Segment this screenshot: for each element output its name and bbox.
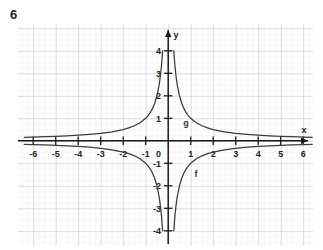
y-tick-label: -4 — [153, 226, 161, 236]
x-tick-label: -4 — [74, 149, 82, 159]
y-tick-label: -1 — [153, 159, 161, 169]
curve-label-g: g — [183, 118, 189, 128]
x-tick-label: -3 — [97, 149, 105, 159]
x-tick-label: 1 — [188, 149, 193, 159]
origin-label: 0 — [156, 149, 161, 159]
x-tick-label: 3 — [233, 149, 238, 159]
x-tick-label: -2 — [119, 149, 127, 159]
y-tick-label: 1 — [156, 114, 161, 124]
x-tick-label: 2 — [211, 149, 216, 159]
grid-background — [18, 24, 313, 246]
y-tick-label: 4 — [156, 46, 161, 56]
x-tick-label: 5 — [278, 149, 283, 159]
x-tick-label: 6 — [301, 149, 306, 159]
x-axis-label: x — [301, 125, 306, 135]
x-tick-label: 4 — [256, 149, 261, 159]
x-tick-label: -6 — [29, 149, 37, 159]
coordinate-plane-svg: -6 -5 -4 -3 -2 -1 1 2 3 4 5 6 4 3 2 1 -1… — [0, 0, 323, 250]
x-tick-label: -1 — [142, 149, 150, 159]
graph-figure: -6 -5 -4 -3 -2 -1 1 2 3 4 5 6 4 3 2 1 -1… — [0, 0, 323, 250]
x-tick-label: -5 — [52, 149, 60, 159]
y-axis-label: y — [173, 30, 178, 40]
